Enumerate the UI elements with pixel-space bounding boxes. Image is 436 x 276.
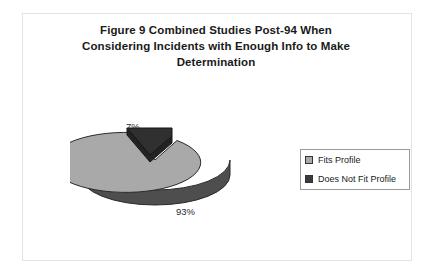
legend-label-does-not-fit-profile: Does Not Fit Profile bbox=[318, 174, 396, 184]
legend-item-does-not-fit-profile[interactable]: Does Not Fit Profile bbox=[301, 169, 409, 188]
chart-title: Figure 9 Combined Studies Post-94 When C… bbox=[36, 22, 396, 70]
pie-chart bbox=[70, 112, 260, 227]
legend-swatch-icon-does-not-fit-profile bbox=[305, 175, 313, 183]
legend-item-fits-profile[interactable]: Fits Profile bbox=[301, 150, 409, 169]
chart-title-line-3: Determination bbox=[36, 54, 396, 70]
figure-container: Figure 9 Combined Studies Post-94 When C… bbox=[0, 0, 436, 276]
pie-chart-svg bbox=[70, 112, 260, 227]
chart-title-line-2: Considering Incidents with Enough Info t… bbox=[36, 38, 396, 54]
chart-title-line-1: Figure 9 Combined Studies Post-94 When bbox=[36, 22, 396, 38]
slice-label-large: 93% bbox=[176, 206, 195, 217]
legend-label-fits-profile: Fits Profile bbox=[318, 155, 361, 165]
chart-legend: Fits Profile Does Not Fit Profile bbox=[300, 149, 410, 190]
slice-label-small: 7% bbox=[126, 121, 140, 132]
legend-swatch-icon-fits-profile bbox=[305, 156, 313, 164]
